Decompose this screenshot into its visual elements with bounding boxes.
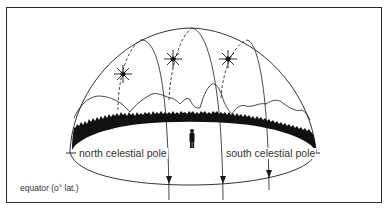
star-icon [164, 50, 182, 68]
star-icon [219, 50, 237, 68]
observer-figure-icon [190, 129, 195, 148]
equator-caption: equator (o° lat.) [19, 184, 80, 193]
star-icon [114, 65, 132, 83]
arrow-head-1 [166, 176, 172, 184]
celestial-sphere-diagram [0, 0, 389, 213]
south-celestial-pole-label: south celestial pole [225, 148, 316, 159]
arrow-head-2 [220, 176, 226, 184]
north-celestial-pole-label: north celestial pole [78, 148, 168, 159]
